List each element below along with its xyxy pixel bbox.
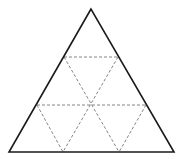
dashed-line-mid-left-to-bottom xyxy=(37,105,63,152)
dashed-subdivision-lines xyxy=(37,57,146,152)
triangle-diagram xyxy=(0,0,177,159)
dashed-line-top-left-to-bottom-right-1 xyxy=(64,57,119,152)
dashed-line-mid-right-to-bottom xyxy=(119,105,146,152)
outer-triangle xyxy=(9,9,174,152)
dashed-line-top-right-to-bottom-left-1 xyxy=(63,57,118,152)
